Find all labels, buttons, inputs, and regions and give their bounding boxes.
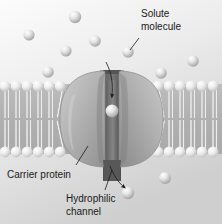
solute-molecule [23,29,34,40]
solute-molecule [42,66,54,78]
diagram-canvas: Solute molecule Carrier protein Hydrophi… [0,0,222,224]
channel-label-line1: Hydrophilic [66,193,115,204]
solute-molecule [60,45,71,56]
facilitated-diffusion-figure: Solute molecule Carrier protein Hydrophi… [0,0,222,224]
solute-label-line2: molecule [141,21,181,32]
solute-molecule [155,67,167,79]
solute-label-line1: Solute [141,8,170,19]
solute-molecule [69,11,81,23]
solute-molecule [122,46,134,58]
solute-in-channel [106,105,119,118]
solute-molecule [187,55,199,67]
channel-mouth-top [104,70,120,74]
channel-label-line2: channel [66,206,101,217]
carrier-protein-label: Carrier protein [7,169,71,180]
solute-molecule [159,172,171,184]
solute-molecule [122,187,134,199]
solute-molecule [89,35,101,47]
